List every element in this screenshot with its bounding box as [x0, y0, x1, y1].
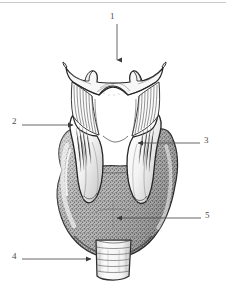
label-number-1: 1 — [110, 12, 115, 21]
label-number-5: 5 — [205, 211, 210, 220]
anatomy-figure: 1 2 3 4 5 — [0, 0, 226, 283]
label-number-4: 4 — [12, 252, 17, 261]
superior-thyroid-notch — [103, 136, 128, 142]
label-number-3: 3 — [204, 136, 209, 145]
thyrohyoid-membrane-group — [71, 82, 159, 136]
hyoid-horn-left — [63, 62, 67, 68]
trachea-group — [96, 240, 131, 280]
larynx-thyroid-illustration — [0, 0, 226, 283]
label-number-2: 2 — [12, 117, 17, 126]
hyoid-horn-right — [162, 62, 166, 68]
